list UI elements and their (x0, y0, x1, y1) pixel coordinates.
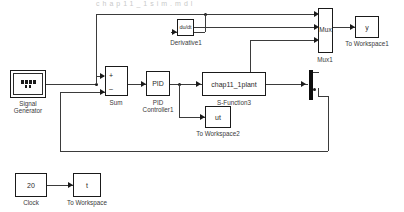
wire-branch-up-to-top-rail (96, 14, 97, 84)
siggen-bar-1 (21, 80, 24, 84)
siggen-bar-3 (29, 80, 32, 84)
to-workspace1-label: y (365, 24, 369, 31)
s-function-label: chap11_1plant (211, 81, 256, 88)
derivative-label: du/dt (179, 25, 191, 31)
mux-label: Mux (319, 27, 331, 34)
block-to-workspace2[interactable]: ut (205, 106, 231, 128)
block-to-workspace1[interactable]: y (355, 16, 379, 38)
block-pid-controller[interactable]: PID (146, 71, 170, 96)
siggen-small-bar-1 (25, 85, 27, 88)
wire-pid-branch-down (179, 84, 180, 117)
wire-demux-out-stub (318, 88, 319, 96)
block-sum[interactable]: + – (105, 66, 128, 96)
caption-sum: Sum (110, 99, 123, 107)
caption-to-workspace2: To Workspace2 (196, 130, 239, 138)
window-title-sliver: chap11_1sim.mdl (0, 0, 404, 8)
siggen-bar-2 (25, 80, 28, 84)
caption-to-workspace: To Workspace (67, 199, 107, 207)
caption-pid-line2: Controller1 (143, 106, 174, 114)
clock-label: 20 (27, 182, 35, 189)
pid-label: PID (152, 80, 164, 87)
signal-generator-display (13, 73, 43, 95)
caption-mux: Mux1 (317, 56, 332, 64)
caption-derivative: Derivative1 (170, 39, 202, 47)
block-mux[interactable]: Mux (318, 8, 333, 53)
block-derivative[interactable]: du/dt (177, 19, 194, 36)
wire-branch-down-to-sum (96, 76, 97, 84)
caption-signal-generator-line2: Generator (14, 107, 42, 115)
wire-feedback-bottom-rail (60, 151, 328, 152)
wire-feedback-riser-right (328, 96, 329, 151)
caption-clock: Clock (23, 199, 39, 207)
sum-minus-sign: – (109, 85, 113, 92)
wire-siggen-to-branch (46, 84, 96, 85)
arrow-sfunction-input (196, 81, 201, 87)
signal-generator-bars (21, 80, 36, 84)
to-workspace2-label: ut (215, 114, 221, 121)
arrow-demux-input (301, 81, 306, 87)
block-clock[interactable]: 20 (15, 173, 47, 197)
wire-top-rail-down-to-derivative (205, 14, 206, 32)
wire-sfunction-to-mux3 (250, 40, 316, 41)
sum-plus-sign: + (109, 72, 113, 79)
wire-demux-top-out (313, 72, 319, 73)
wire-derivative-to-mux2 (194, 27, 316, 28)
caption-to-workspace1: To Workspace1 (345, 40, 388, 48)
siggen-small-bar-2 (29, 85, 31, 88)
signal-generator-small-bars (25, 85, 31, 88)
block-to-workspace[interactable]: t (73, 173, 101, 197)
block-signal-generator[interactable] (10, 70, 46, 98)
block-demux[interactable] (309, 70, 313, 100)
simulink-diagram-canvas: chap11_1sim.mdl (0, 0, 404, 212)
wire-demux-out-to-feedback (318, 96, 328, 97)
demux-output-port-dot (313, 88, 316, 91)
block-s-function[interactable]: chap11_1plant (202, 72, 266, 96)
wire-feedback-riser-left (60, 92, 61, 151)
siggen-bar-4 (33, 80, 36, 84)
to-workspace-label: t (86, 182, 88, 189)
wire-feedback-into-sum-minus (60, 92, 105, 93)
